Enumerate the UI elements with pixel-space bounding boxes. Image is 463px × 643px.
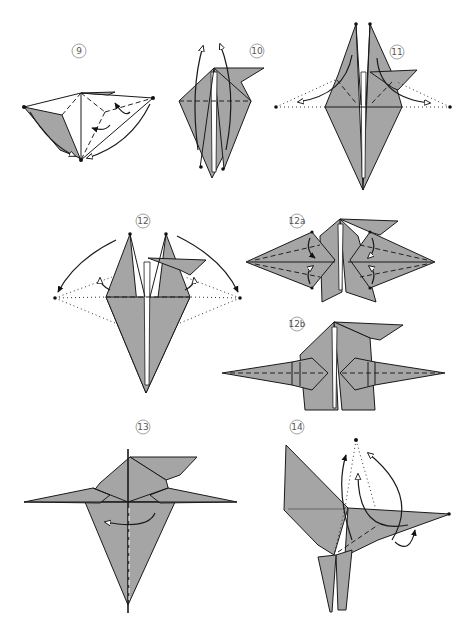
step-12a: 12a — [246, 214, 435, 302]
step-12b-label: 12b — [288, 317, 305, 331]
step-10: 10 — [179, 44, 264, 178]
svg-text:12b: 12b — [288, 319, 305, 329]
step-11: 11 — [274, 22, 452, 190]
step-9: 9 — [22, 44, 155, 162]
svg-text:9: 9 — [76, 46, 82, 56]
step-14-label: 14 — [290, 420, 304, 434]
step-13-label: 13 — [136, 420, 150, 434]
step-11-label: 11 — [390, 45, 404, 59]
svg-text:10: 10 — [251, 46, 263, 56]
svg-text:14: 14 — [291, 422, 303, 432]
step-10-label: 10 — [250, 44, 264, 58]
step-9-label: 9 — [72, 44, 86, 58]
step-12b: 12b — [222, 317, 445, 410]
origami-diagram: 9 10 11 — [0, 0, 463, 643]
step-12a-label: 12a — [289, 214, 306, 228]
step-12: 12 — [53, 214, 242, 393]
svg-text:11: 11 — [391, 47, 402, 57]
svg-text:12a: 12a — [289, 216, 306, 226]
step-13: 13 — [24, 420, 237, 613]
svg-text:12: 12 — [137, 216, 148, 226]
step-14: 14 — [284, 420, 451, 612]
svg-text:13: 13 — [137, 422, 148, 432]
step-12-label: 12 — [136, 214, 150, 228]
